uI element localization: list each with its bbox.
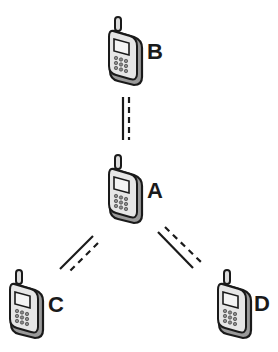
- edge-a-d: [158, 227, 202, 268]
- mobile-phone-icon: [10, 270, 43, 338]
- network-diagram: [0, 0, 278, 352]
- node-label-d: D: [254, 293, 270, 315]
- mobile-phone-icon: [109, 155, 142, 223]
- edge-a-b: [123, 97, 129, 140]
- mobile-phone-icon: [218, 270, 251, 338]
- edge-a-c: [60, 236, 98, 273]
- node-label-c: C: [48, 294, 64, 316]
- mobile-phone-icon: [109, 17, 142, 85]
- node-label-a: A: [147, 180, 163, 202]
- node-label-b: B: [147, 41, 163, 63]
